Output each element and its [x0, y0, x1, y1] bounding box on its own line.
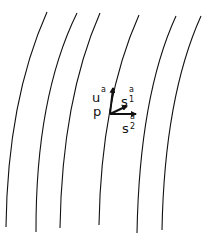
label-s2-sub: 2 [130, 123, 135, 131]
label-s1: s a 1 [121, 93, 128, 109]
label-s1-main: s [121, 94, 128, 109]
curve-3 [60, 13, 100, 228]
curve-1 [6, 12, 47, 227]
label-s1-sup: a [129, 86, 134, 94]
label-u-sup: a [101, 86, 106, 94]
vector-u-arrow [110, 88, 113, 114]
label-s2: s a 2 [122, 120, 129, 136]
label-s2-sup: a [130, 113, 135, 121]
curve-2 [36, 13, 77, 232]
label-s1-sub: 1 [129, 96, 134, 104]
curve-6 [162, 16, 201, 230]
worldline-diagram [0, 0, 206, 236]
label-p: p [93, 103, 101, 119]
label-s2-main: s [122, 121, 129, 136]
label-p-main: p [93, 104, 101, 119]
curve-family [6, 12, 201, 233]
